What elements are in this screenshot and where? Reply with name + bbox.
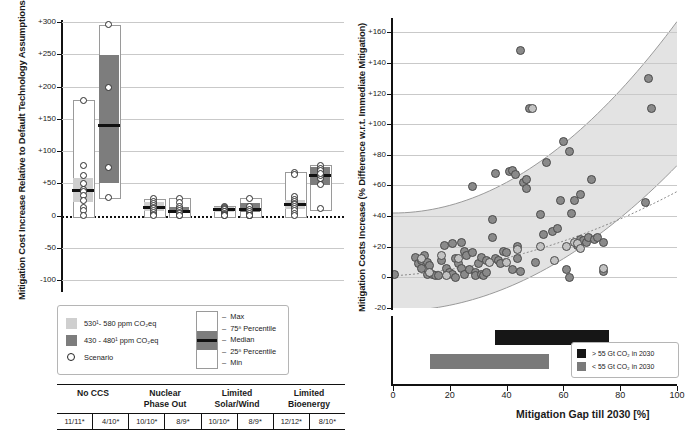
right-x-tick-mark: [620, 386, 621, 391]
right-tick-mark: [387, 155, 392, 156]
left-tick-mark: [57, 87, 62, 88]
left-legend-swatch-column: 530¹- 580 ppm CO₂eq 430 - 480¹ ppm CO₂eq…: [66, 315, 186, 366]
legend-item-scenario: Scenario: [66, 349, 186, 366]
scenario-count-cell: 11/11*: [57, 414, 92, 429]
left-y-tick: +100: [20, 146, 56, 155]
legend-item-530-580: 530¹- 580 ppm CO₂eq: [66, 315, 186, 332]
right-gridline: [393, 216, 677, 217]
scenario-marker: [221, 212, 228, 219]
scenario-count-cell: 8/10*: [309, 414, 345, 429]
left-tick-mark: [57, 216, 62, 217]
left-y-tick: -50: [20, 243, 56, 252]
scatter-point: [522, 184, 531, 193]
mitigation-gap-bar: [430, 354, 549, 369]
scatter-point: [565, 147, 574, 156]
left-tick-mark: [57, 54, 62, 55]
right-x-tick: 0: [377, 390, 409, 400]
right-y-tick: +80: [352, 150, 386, 159]
gap-bars-area: > 55 Gt CO₂ in 2030 < 55 Gt CO₂ in 2030: [393, 316, 677, 384]
swatch-dark-icon: [66, 335, 77, 346]
scatter-point: [491, 169, 500, 178]
scenario-marker: [291, 171, 298, 178]
right-gridline: [393, 124, 677, 125]
category-name: NuclearPhase Out: [129, 385, 201, 413]
right-tick-mark: [387, 185, 392, 186]
scatter-point: [528, 104, 537, 113]
scatter-point: [502, 258, 511, 267]
right-y-tick: 0: [352, 272, 386, 281]
scenario-marker: [291, 212, 298, 219]
swatch-black-icon: [577, 349, 586, 358]
scenario-count-cell: 8/9*: [237, 414, 273, 429]
scatter-point: [553, 224, 562, 233]
scenario-count-cell: 10/10*: [201, 414, 237, 429]
scenario-marker: [105, 84, 112, 91]
scatter-point: [488, 215, 497, 224]
scenario-marker: [317, 170, 324, 177]
right-x-tick-mark: [563, 386, 564, 391]
right-gridline: [393, 94, 677, 95]
category-names-row: No CCSNuclearPhase OutLimitedSolar/WindL…: [57, 385, 345, 413]
scenario-marker: [317, 205, 324, 212]
legend-label-scenario: Scenario: [84, 353, 113, 362]
scatter-point: [539, 230, 548, 239]
scatter-point: [485, 258, 494, 267]
scatter-point: [576, 244, 585, 253]
right-panel: Mitigation Costs Increase (% Difference …: [346, 0, 692, 442]
right-gridline: [393, 63, 677, 64]
scenario-marker: [246, 195, 253, 202]
scenario-marker: [80, 212, 87, 219]
right-tick-mark: [387, 247, 392, 248]
scatter-point: [451, 273, 460, 282]
legend-boxplot-diagram: [196, 311, 218, 369]
swatch-grey-icon: [577, 362, 586, 371]
legend-label-p25: – 25ⁿ Percentile: [222, 346, 276, 358]
category-name: LimitedBioenergy: [273, 385, 345, 413]
right-y-tick: +160: [352, 27, 386, 36]
right-y-tick: +100: [352, 119, 386, 128]
left-tick-mark: [57, 151, 62, 152]
category-table: No CCSNuclearPhase OutLimitedSolar/WindL…: [57, 384, 345, 430]
legend-label-min: – Min: [222, 357, 276, 369]
right-gridline: [393, 155, 677, 156]
scatter-point: [599, 264, 608, 273]
scatter-point: [567, 209, 576, 218]
right-y-tick: -20: [352, 303, 386, 312]
right-x-tick: 100: [661, 390, 692, 400]
right-x-tick-mark: [450, 386, 451, 391]
scenario-count-cell: 8/9*: [164, 414, 200, 429]
right-gridline: [393, 32, 677, 33]
scatter-point: [511, 170, 520, 179]
right-x-tick: 60: [547, 390, 579, 400]
left-legend: 530¹- 580 ppm CO₂eq 430 - 480¹ ppm CO₂eq…: [57, 305, 289, 375]
scenario-circle-icon: [67, 353, 75, 361]
swatch-light-icon: [66, 318, 77, 329]
scenario-marker: [317, 181, 324, 188]
right-tick-mark: [387, 94, 392, 95]
scenario-count-cell: 10/10*: [128, 414, 164, 429]
scatter-point: [599, 238, 608, 247]
scatter-point: [576, 190, 585, 199]
left-y-tick: -100: [20, 275, 56, 284]
left-tick-mark: [57, 248, 62, 249]
scatter-point: [516, 267, 525, 276]
right-tick-mark: [387, 308, 392, 309]
left-plot-area: [62, 22, 344, 290]
right-x-tick: 20: [434, 390, 466, 400]
scatter-point: [559, 137, 568, 146]
scenario-marker: [150, 212, 157, 219]
left-tick-mark: [57, 22, 62, 23]
figure-root: Mitigation Cost Increase Relative to Def…: [0, 0, 692, 442]
scatter-point: [542, 158, 551, 167]
scenario-marker: [80, 172, 87, 179]
category-name: LimitedSolar/Wind: [201, 385, 273, 413]
left-y-tick: +300: [20, 17, 56, 26]
legend-label-430-480: 430 - 480¹ ppm CO₂eq: [84, 336, 158, 345]
scatter-point: [565, 273, 574, 282]
legend-label-gt55: > 55 Gt CO₂ in 2030: [592, 350, 654, 357]
left-gridline: [62, 248, 344, 249]
scatter-plot-area: [393, 20, 677, 308]
category-name: No CCS: [57, 385, 129, 413]
scatter-point: [641, 198, 650, 207]
bars-x-axis-line: [391, 384, 677, 386]
